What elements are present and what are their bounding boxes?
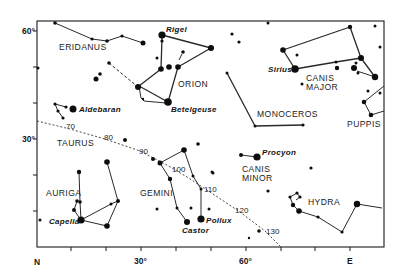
star bbox=[335, 66, 339, 70]
star bbox=[374, 25, 377, 28]
star bbox=[351, 65, 357, 71]
label-canis-major-2: MAJOR bbox=[306, 82, 338, 92]
label-rigel: Rigel bbox=[166, 25, 188, 34]
star bbox=[56, 109, 59, 112]
star bbox=[98, 72, 102, 76]
label-eridanus: ERIDANUS bbox=[59, 42, 107, 52]
az-60-label: 60° bbox=[239, 256, 252, 266]
label-betelgeuse: Betelgeuse bbox=[171, 105, 217, 114]
star bbox=[226, 72, 229, 75]
star bbox=[181, 50, 185, 54]
star bbox=[354, 201, 360, 207]
star bbox=[123, 138, 127, 142]
constellation-line-orion bbox=[179, 54, 182, 60]
north-label: N bbox=[34, 257, 40, 267]
star bbox=[316, 215, 319, 218]
star bbox=[175, 64, 181, 70]
star bbox=[166, 64, 172, 70]
constellation-line-hydra bbox=[299, 204, 382, 232]
star-chart: 60° 30° N 30° 60° E 70 80 90 100 110 120… bbox=[0, 0, 403, 278]
constellation-line-eridanus bbox=[55, 23, 143, 43]
star-procyon bbox=[253, 153, 260, 160]
star bbox=[77, 170, 81, 174]
ecliptic-mark-100: 100 bbox=[172, 165, 186, 174]
constellation-line-orion bbox=[139, 38, 168, 102]
label-sirius: Sirius bbox=[268, 65, 292, 74]
star bbox=[230, 32, 233, 35]
star bbox=[296, 54, 299, 57]
star bbox=[367, 90, 370, 93]
star bbox=[181, 147, 187, 153]
constellation-line-auriga bbox=[81, 201, 118, 226]
star bbox=[53, 21, 57, 25]
east-label: E bbox=[347, 256, 353, 266]
star bbox=[298, 195, 301, 198]
label-hydra: HYDRA bbox=[308, 197, 340, 207]
star bbox=[142, 98, 144, 100]
star bbox=[110, 203, 113, 206]
star bbox=[208, 45, 214, 51]
star bbox=[151, 157, 155, 161]
star bbox=[296, 208, 302, 214]
label-castor: Castor bbox=[182, 226, 210, 235]
label-pollux: Pollux bbox=[206, 216, 232, 225]
star bbox=[156, 208, 159, 211]
lat-60-label: 60° bbox=[22, 26, 35, 36]
star bbox=[190, 207, 193, 210]
ecliptic-mark-120: 120 bbox=[235, 206, 249, 215]
star bbox=[379, 46, 382, 49]
star bbox=[160, 39, 163, 42]
star bbox=[37, 67, 40, 70]
star bbox=[237, 40, 240, 43]
label-procyon: Procyon bbox=[262, 148, 296, 157]
star bbox=[192, 175, 195, 178]
label-taurus: TAURUS bbox=[57, 138, 94, 148]
star bbox=[309, 166, 312, 169]
label-orion: ORION bbox=[178, 79, 208, 89]
star bbox=[168, 177, 172, 181]
constellation-line-orion-west bbox=[109, 63, 138, 87]
ecliptic-mark-110: 110 bbox=[204, 185, 217, 194]
az-30-label: 30° bbox=[134, 256, 147, 266]
ecliptic-mark-130: 130 bbox=[266, 227, 280, 236]
star bbox=[120, 34, 123, 37]
star-castor bbox=[184, 219, 190, 225]
star bbox=[257, 229, 261, 233]
star bbox=[357, 72, 360, 75]
star bbox=[158, 66, 164, 72]
star bbox=[64, 105, 67, 108]
star bbox=[280, 47, 286, 53]
lat-30-label: 30° bbox=[22, 134, 35, 144]
label-capella: Capella bbox=[49, 217, 80, 226]
star bbox=[78, 200, 82, 204]
star bbox=[288, 195, 291, 198]
label-monoceros: MONOCEROS bbox=[257, 109, 318, 119]
star bbox=[61, 116, 64, 119]
label-puppis: PUPPIS bbox=[347, 119, 381, 129]
constellation-line-canis-major bbox=[283, 27, 361, 69]
star bbox=[135, 84, 141, 90]
star bbox=[348, 25, 352, 29]
star bbox=[301, 123, 304, 126]
star bbox=[340, 230, 343, 233]
constellation-line-gemini bbox=[160, 150, 201, 217]
star bbox=[156, 57, 159, 60]
star bbox=[267, 22, 270, 25]
star bbox=[104, 159, 110, 165]
star bbox=[362, 100, 367, 105]
star bbox=[372, 74, 378, 80]
star bbox=[369, 113, 374, 118]
star bbox=[266, 189, 269, 192]
star bbox=[200, 188, 203, 191]
star bbox=[291, 203, 295, 207]
label-aldebaran: Aldebaran bbox=[78, 105, 121, 114]
star bbox=[39, 219, 42, 222]
star bbox=[72, 208, 76, 212]
star bbox=[358, 55, 364, 61]
ecliptic-mark-70: 70 bbox=[66, 122, 75, 131]
star bbox=[104, 223, 110, 229]
star bbox=[176, 207, 179, 210]
label-gemini: GEMINI bbox=[140, 188, 173, 198]
star bbox=[239, 153, 243, 157]
ecliptic-mark-90: 90 bbox=[139, 147, 148, 156]
